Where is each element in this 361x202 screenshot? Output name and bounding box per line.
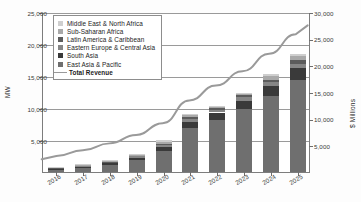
y-axis-left-label: 20,000 <box>27 42 47 49</box>
legend-item-label: Sub-Saharan Africa <box>67 28 123 35</box>
y-axis-title-right: $ Millions <box>349 99 356 128</box>
legend-swatch-icon <box>58 29 63 34</box>
legend-swatch-icon <box>58 45 63 50</box>
legend-item-label: Middle East & North Africa <box>67 20 143 27</box>
y-axis-left-label: 15,000 <box>27 74 47 81</box>
y-axis-right-tick <box>309 40 313 41</box>
x-axis-label: 2020 <box>154 173 170 186</box>
x-axis-label: 2025 <box>288 173 304 186</box>
y-axis-right-tick <box>309 120 313 121</box>
legend-item-label: Total Revenue <box>69 69 113 76</box>
y-axis-right-tick <box>309 93 313 94</box>
y-axis-right-label: 5,000 <box>314 143 330 150</box>
y-axis-right-tick <box>309 13 313 14</box>
legend-item-label: Eastern Europe & Central Asia <box>67 44 155 51</box>
x-axis-label: 2019 <box>127 173 143 186</box>
legend-item[interactable]: Latin America & Caribbean <box>58 35 155 43</box>
y-axis-right-label: 10,000 <box>314 116 334 123</box>
legend-item[interactable]: East Asia & Pacific <box>58 60 155 68</box>
x-axis-label: 2017 <box>73 173 89 186</box>
legend-swatch-icon <box>58 53 63 58</box>
x-axis-label: 2021 <box>180 173 196 186</box>
chart-legend: Middle East & North AfricaSub-Saharan Af… <box>53 15 162 80</box>
legend-line-icon <box>54 72 67 73</box>
y-axis-right-label: 20,000 <box>314 63 334 70</box>
legend-item-label: Latin America & Caribbean <box>67 36 144 43</box>
x-axis-label: 2022 <box>207 173 223 186</box>
legend-item[interactable]: Eastern Europe & Central Asia <box>58 44 155 52</box>
legend-item[interactable]: Middle East & North Africa <box>58 19 155 27</box>
y-axis-left-label: 5,000 <box>31 138 47 145</box>
legend-swatch-icon <box>58 21 63 26</box>
x-axis-label: 2018 <box>100 173 116 186</box>
y-axis-right-label: 25,000 <box>314 36 334 43</box>
legend-swatch-icon <box>58 37 63 42</box>
y-axis-right-tick <box>309 66 313 67</box>
legend-item[interactable]: South Asia <box>58 52 155 60</box>
y-axis-right-label: 15,000 <box>314 90 334 97</box>
y-axis-right-label: 30,000 <box>314 10 334 17</box>
stacked-bar-chart: MW $ Millions 5,00010,00015,00020,00025,… <box>0 0 361 202</box>
legend-item-label: South Asia <box>67 52 98 59</box>
legend-item-label: East Asia & Pacific <box>67 61 121 68</box>
x-axis-label: 2023 <box>234 173 250 186</box>
y-axis-left-label: 25,000 <box>27 10 47 17</box>
legend-swatch-icon <box>58 62 63 67</box>
x-axis-label: 2024 <box>261 173 277 186</box>
legend-item[interactable]: Sub-Saharan Africa <box>58 27 155 35</box>
y-axis-right-tick <box>309 146 313 147</box>
legend-item[interactable]: Total Revenue <box>58 68 155 76</box>
y-axis-title-left: MW <box>4 86 11 98</box>
y-axis-left-label: 10,000 <box>27 106 47 113</box>
x-axis-label: 2016 <box>46 173 62 186</box>
